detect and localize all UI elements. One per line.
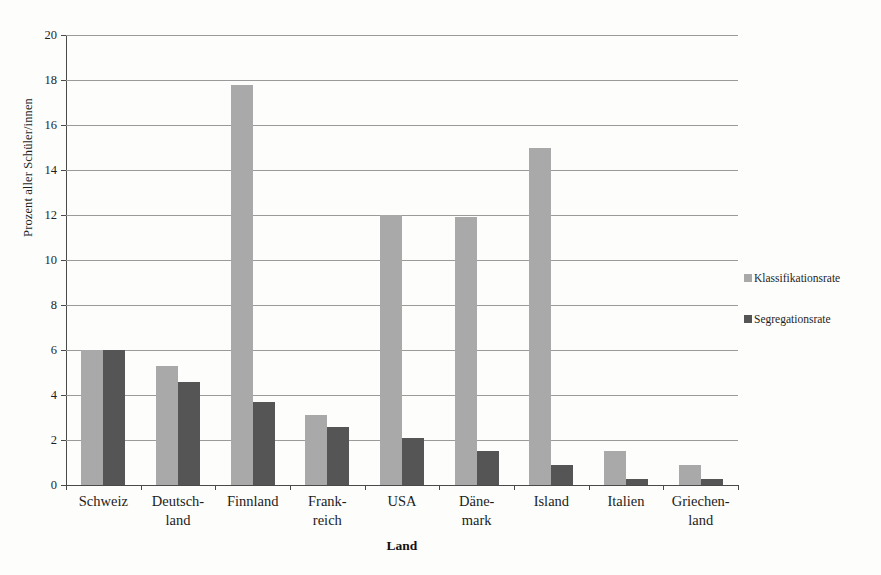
y-tick-label: 14: [45, 163, 58, 178]
bar-group: [663, 35, 738, 485]
x-axis-label-line: Island: [514, 492, 589, 511]
bar-group: [290, 35, 365, 485]
bar-group: [589, 35, 664, 485]
y-tick-label: 16: [45, 118, 58, 133]
x-axis-baseline: [66, 485, 738, 486]
legend-item: Segregationsrate: [744, 313, 879, 325]
bar-group: [365, 35, 440, 485]
y-tick-label: 6: [51, 343, 57, 358]
x-axis-label-line: USA: [365, 492, 440, 511]
x-axis-label-line: mark: [439, 511, 514, 530]
bar: [380, 215, 402, 485]
bar-group: [66, 35, 141, 485]
x-axis-title: Land: [66, 538, 738, 554]
legend-label: Klassifikationsrate: [754, 272, 840, 284]
x-axis-label-line: reich: [290, 511, 365, 530]
x-tick-mark: [589, 485, 590, 490]
x-axis-label: Island: [514, 492, 589, 530]
x-axis-label: Griechen-land: [663, 492, 738, 530]
bar-group: [141, 35, 216, 485]
x-axis-label: USA: [365, 492, 440, 530]
legend: KlassifikationsrateSegregationsrate: [744, 272, 879, 354]
x-axis-label-line: Finnland: [215, 492, 290, 511]
x-axis-label-line: land: [141, 511, 216, 530]
bar-groups: [66, 35, 738, 485]
y-tick-label: 10: [45, 253, 58, 268]
bar: [679, 465, 701, 485]
x-tick-mark: [738, 485, 739, 490]
x-axis-label-line: land: [663, 511, 738, 530]
bar-chart: Prozent aller Schüler/innen 201816141210…: [0, 0, 881, 575]
y-tick-label: 8: [51, 298, 57, 313]
x-axis-label: Italien: [589, 492, 664, 530]
x-axis-label: Deutsch-land: [141, 492, 216, 530]
x-tick-mark: [514, 485, 515, 490]
legend-swatch: [744, 315, 752, 323]
plot-area: 20181614121086420: [66, 35, 738, 485]
bar: [156, 366, 178, 485]
legend-swatch: [744, 274, 752, 282]
x-axis-label: Däne-mark: [439, 492, 514, 530]
x-axis-label-line: Deutsch-: [141, 492, 216, 511]
bar-group: [439, 35, 514, 485]
x-axis-label: Frank-reich: [290, 492, 365, 530]
x-tick-mark: [66, 485, 67, 490]
bar: [305, 415, 327, 485]
bar: [455, 217, 477, 485]
x-axis-label-line: Italien: [589, 492, 664, 511]
x-axis-label: Schweiz: [66, 492, 141, 530]
bar: [701, 479, 723, 485]
x-axis-label-line: Griechen-: [663, 492, 738, 511]
bar: [103, 350, 125, 485]
x-tick-mark: [141, 485, 142, 490]
y-tick-label: 18: [45, 73, 58, 88]
bar: [529, 148, 551, 486]
bar: [253, 402, 275, 485]
x-tick-mark: [439, 485, 440, 490]
bar: [402, 438, 424, 485]
bar: [551, 465, 573, 485]
x-tick-mark: [215, 485, 216, 490]
x-axis-label-line: Schweiz: [66, 492, 141, 511]
bar-group: [514, 35, 589, 485]
legend-item: Klassifikationsrate: [744, 272, 879, 284]
x-tick-mark: [663, 485, 664, 490]
bar-group: [215, 35, 290, 485]
bar: [477, 451, 499, 485]
y-tick-label: 12: [45, 208, 58, 223]
y-tick-label: 2: [51, 433, 57, 448]
y-tick-label: 0: [51, 478, 57, 493]
bar: [178, 382, 200, 486]
y-axis-title: Prozent aller Schüler/innen: [21, 58, 36, 278]
x-axis-label-line: Frank-: [290, 492, 365, 511]
x-axis-labels: SchweizDeutsch-landFinnlandFrank-reichUS…: [66, 492, 738, 530]
y-tick-label: 4: [51, 388, 57, 403]
bar: [231, 85, 253, 486]
bar: [81, 350, 103, 485]
bar: [327, 427, 349, 486]
x-tick-mark: [290, 485, 291, 490]
legend-label: Segregationsrate: [754, 313, 831, 325]
x-axis-label: Finnland: [215, 492, 290, 530]
x-axis-label-line: Däne-: [439, 492, 514, 511]
x-tick-mark: [365, 485, 366, 490]
bar: [626, 479, 648, 485]
y-tick-label: 20: [45, 28, 58, 43]
bar: [604, 451, 626, 485]
